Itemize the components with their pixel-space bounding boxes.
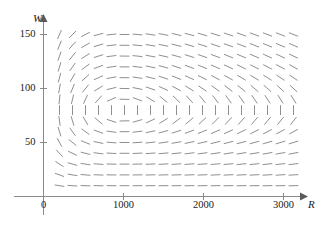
- field-segment: [159, 153, 168, 154]
- field-segment: [107, 142, 116, 143]
- field-segment: [198, 130, 206, 133]
- field-segment: [159, 76, 168, 79]
- field-segment: [264, 65, 272, 69]
- field-segment: [263, 54, 271, 58]
- field-segment: [146, 142, 155, 143]
- field-segment: [289, 175, 298, 176]
- field-segment: [185, 164, 194, 165]
- field-segment: [211, 65, 219, 69]
- field-segment: [277, 75, 285, 80]
- field-segment: [94, 76, 102, 80]
- field-segment: [212, 86, 219, 91]
- field-segment: [159, 44, 168, 46]
- field-segment: [225, 118, 231, 125]
- field-segment: [172, 142, 181, 144]
- field-segment: [57, 139, 61, 147]
- field-segment: [185, 44, 194, 46]
- field-segment: [107, 34, 116, 35]
- field-segment: [107, 87, 116, 89]
- field-segment: [81, 152, 90, 154]
- field-segment: [83, 117, 88, 125]
- field-segment: [237, 130, 245, 134]
- field-segment: [225, 76, 233, 80]
- field-segment: [250, 141, 259, 143]
- field-segment: [263, 153, 272, 155]
- field-segment: [84, 95, 88, 103]
- field-segment: [289, 33, 297, 36]
- field-segment: [58, 73, 60, 82]
- field-segment: [107, 66, 116, 67]
- field-segment: [276, 164, 285, 165]
- field-segment: [56, 150, 62, 157]
- field-segment: [82, 54, 90, 59]
- field-segment: [198, 142, 207, 144]
- field-segment: [276, 44, 284, 47]
- field-segment: [94, 153, 103, 154]
- field-segment: [289, 44, 297, 48]
- field-segment: [59, 84, 61, 93]
- field-segment: [291, 95, 296, 103]
- field-segment: [71, 117, 74, 126]
- field-segment: [146, 34, 155, 35]
- field-segment: [278, 95, 283, 103]
- field-segment: [159, 87, 167, 91]
- field-segment: [82, 64, 89, 69]
- field-segment: [224, 130, 232, 134]
- field-segment: [172, 164, 181, 165]
- field-segment: [263, 175, 272, 176]
- field-segment: [276, 175, 285, 176]
- field-segment: [94, 65, 102, 68]
- field-segment: [224, 141, 233, 143]
- field-segment: [146, 77, 155, 79]
- field-segment: [68, 163, 77, 165]
- field-segment: [211, 153, 220, 154]
- field-segment: [277, 130, 285, 134]
- field-segment: [82, 75, 89, 81]
- field-segment: [252, 96, 257, 104]
- field-segment: [172, 33, 181, 35]
- field-segment: [224, 44, 232, 47]
- field-segment: [58, 63, 61, 72]
- direction-field-plot: [0, 0, 323, 229]
- field-segment: [94, 142, 103, 144]
- field-segment: [250, 33, 258, 36]
- field-segment: [198, 65, 206, 68]
- field-segment: [250, 175, 259, 176]
- field-segment: [212, 118, 218, 124]
- field-segment: [263, 44, 271, 47]
- field-segment: [251, 75, 259, 80]
- field-segment: [237, 33, 246, 36]
- field-segment: [172, 153, 181, 154]
- field-segment: [263, 141, 272, 144]
- field-segment: [276, 33, 284, 36]
- field-segment: [250, 44, 258, 47]
- field-segment: [159, 131, 168, 133]
- field-segment: [107, 56, 116, 57]
- field-segment: [224, 164, 233, 165]
- field-segment: [211, 33, 220, 36]
- field-segment: [277, 86, 284, 92]
- field-segment: [237, 164, 246, 165]
- field-segment: [59, 116, 60, 125]
- field-segment: [276, 141, 285, 144]
- field-segment: [94, 130, 102, 133]
- field-segment: [186, 96, 192, 103]
- field-segment: [172, 76, 180, 79]
- field-segment: [239, 118, 245, 125]
- field-segment: [94, 164, 103, 165]
- field-segment: [289, 152, 298, 154]
- field-segment: [290, 85, 297, 91]
- field-segment: [237, 153, 246, 154]
- y-axis-label: W: [33, 12, 42, 24]
- field-segment: [160, 96, 167, 102]
- field-segment: [200, 96, 206, 103]
- field-segment: [81, 163, 90, 164]
- field-segment: [95, 118, 102, 124]
- field-segment: [133, 56, 142, 57]
- field-segment: [250, 130, 258, 134]
- field-segment: [133, 77, 142, 78]
- field-segment: [133, 66, 142, 67]
- field-segment: [58, 41, 61, 49]
- field-segment: [82, 32, 90, 36]
- field-segment: [185, 33, 194, 35]
